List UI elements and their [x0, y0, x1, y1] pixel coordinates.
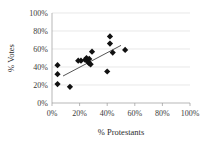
x-tickmarks: [52, 103, 190, 106]
x-tick-label: 100%: [181, 109, 200, 118]
y-axis-title: % Votes: [6, 44, 16, 72]
x-tick-label: 0%: [47, 109, 58, 118]
x-axis-title: % Protestants: [98, 127, 145, 137]
y-tick-label: 80%: [33, 27, 48, 36]
x-tick-labels: 0% 20% 40% 60% 80% 100%: [47, 109, 200, 118]
scatter-chart: 100% 80% 60% 40% 20% 0% 0% 20% 40% 60% 8…: [0, 0, 202, 147]
y-tick-label: 20%: [33, 81, 48, 90]
chart-canvas: 100% 80% 60% 40% 20% 0% 0% 20% 40% 60% 8…: [0, 0, 202, 147]
x-tick-label: 20%: [72, 109, 87, 118]
x-tick-label: 60%: [127, 109, 142, 118]
y-tick-label: 0%: [37, 99, 48, 108]
y-tick-labels: 100% 80% 60% 40% 20% 0%: [29, 9, 48, 108]
x-tick-label: 80%: [155, 109, 170, 118]
x-tick-label: 40%: [100, 109, 115, 118]
y-tick-label: 40%: [33, 63, 48, 72]
y-tick-label: 100%: [29, 9, 48, 18]
plot-area-background: [52, 13, 190, 103]
y-tick-label: 60%: [33, 45, 48, 54]
